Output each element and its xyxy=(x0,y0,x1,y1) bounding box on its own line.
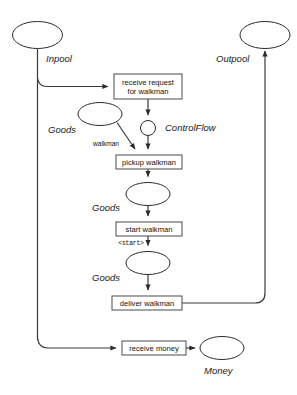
label-pickup-walkman: pickup walkman xyxy=(122,158,176,167)
label-receive-money: receive money xyxy=(129,344,179,353)
node-layer: Inpool Outpool receive request for walkm… xyxy=(13,22,291,377)
label-goods-2: Goods xyxy=(92,202,120,213)
label-receive-request-line1: receive request xyxy=(122,78,175,87)
node-money[interactable] xyxy=(200,337,244,360)
label-edge-start-token: <start> xyxy=(118,240,144,247)
diagram-canvas: Inpool Outpool receive request for walkm… xyxy=(0,0,297,395)
workflow-diagram: Inpool Outpool receive request for walkm… xyxy=(0,0,297,395)
label-money: Money xyxy=(204,365,234,376)
label-edge-walkman: walkman xyxy=(92,140,119,147)
label-deliver-walkman: deliver walkman xyxy=(120,299,174,308)
node-outpool[interactable] xyxy=(240,22,290,49)
label-goods-1: Goods xyxy=(48,124,76,135)
node-goods-2[interactable] xyxy=(126,183,170,206)
label-receive-request-line2: for walkman xyxy=(128,87,169,96)
label-controlflow: ControlFlow xyxy=(165,122,217,133)
label-inpool: Inpool xyxy=(46,53,73,64)
edge-inpool-to-receive-request xyxy=(38,78,109,87)
node-goods-1[interactable] xyxy=(78,103,122,126)
label-start-walkman: start walkman xyxy=(126,225,173,234)
node-inpool[interactable] xyxy=(13,22,63,49)
edge-inpool-to-receive-money xyxy=(38,338,117,348)
edge-goods1-to-pickup xyxy=(117,123,135,150)
edge-deliver-to-outpool xyxy=(182,51,265,303)
node-controlflow[interactable] xyxy=(141,121,156,136)
label-goods-3: Goods xyxy=(92,272,120,283)
label-outpool: Outpool xyxy=(216,53,250,64)
node-goods-3[interactable] xyxy=(126,252,170,275)
